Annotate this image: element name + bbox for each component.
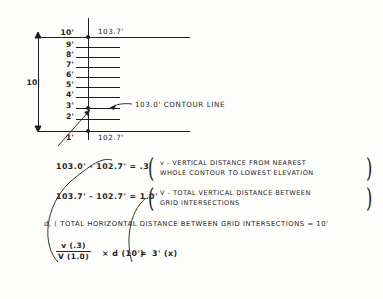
equation-2-close-paren: ) <box>366 185 372 211</box>
tick-label-1: 1' <box>58 133 74 142</box>
equation-2-open-paren: ( <box>148 185 154 211</box>
tick-label-7: 7' <box>58 60 74 69</box>
tick-label-10: 10' <box>58 28 74 37</box>
tick-label-3: 3' <box>58 101 74 110</box>
formula-denominator: V (1.0) <box>56 252 91 261</box>
formula-fraction: v (.3) V (1.0) <box>56 241 91 261</box>
formula-result: 3' (x) <box>152 249 178 259</box>
tick-label-6: 6' <box>58 70 74 79</box>
top-elevation-label: 103.7' <box>98 27 124 36</box>
contour-line-callout: 103.0' CONTOUR LINE <box>135 100 225 109</box>
drawing-sheet: 10' 9' 8' 7' 6' 5' 4' 3' 2' 1' 103.7' 10… <box>0 0 383 299</box>
equation-2-note-line2: GRID INTERSECTIONS <box>160 199 240 207</box>
formula-equals: = <box>140 249 147 259</box>
bottom-elevation-label: 102.7' <box>98 133 124 142</box>
equation-1-note-line1: v - VERTICAL DISTANCE FROM NEAREST <box>160 159 306 167</box>
tick-line <box>76 97 120 98</box>
tick-line <box>76 67 120 68</box>
tick-line <box>76 47 120 48</box>
tick-line <box>76 77 120 78</box>
tick-label-4: 4' <box>58 90 74 99</box>
equation-2-note: V - TOTAL VERTICAL DISTANCE BETWEEN GRID… <box>160 188 311 208</box>
tick-line <box>76 87 120 88</box>
tick-line <box>76 57 120 58</box>
tick-label-5: 5' <box>58 80 74 89</box>
grid-intersection-dot <box>86 129 90 133</box>
equation-3-expression: d, ( TOTAL HORIZONTAL DISTANCE BETWEEN G… <box>44 219 329 230</box>
equation-1-note: v - VERTICAL DISTANCE FROM NEAREST WHOLE… <box>160 158 314 178</box>
contour-point-marker <box>86 106 90 110</box>
equation-2-note-line1: V - TOTAL VERTICAL DISTANCE BETWEEN <box>160 189 311 197</box>
contour-callout-leader <box>110 104 132 110</box>
grid-intersection-dot <box>86 35 90 39</box>
tick-label-2: 2' <box>58 112 74 121</box>
tick-label-9: 9' <box>58 40 74 49</box>
tick-line <box>76 119 120 120</box>
formula-multiplier: × d (10') <box>102 249 144 259</box>
equation-2-expression: 103.7' - 102.7' = 1.0' <box>56 192 158 202</box>
equation-1-open-paren: ( <box>148 155 154 181</box>
formula-numerator: v (.3) <box>56 241 91 250</box>
tick-line-contour <box>76 108 120 109</box>
vertical-dimension-label: 10' <box>24 78 40 87</box>
equation-1-expression: 103.0' - 102.7' = .3' <box>56 162 152 172</box>
tick-label-8: 8' <box>58 50 74 59</box>
equation-1-close-paren: ) <box>366 155 372 181</box>
equation-1-note-line2: WHOLE CONTOUR TO LOWEST ELEVATION <box>160 169 314 177</box>
